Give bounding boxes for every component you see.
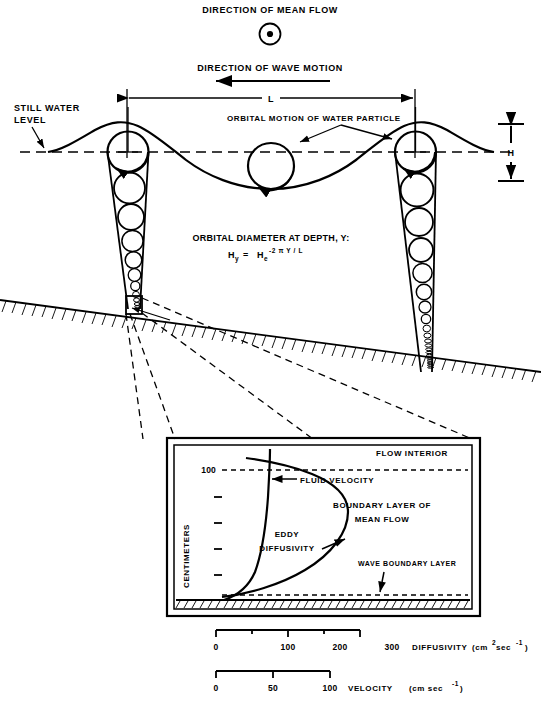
orbital-circle-middle-group [248,143,294,190]
eddy-diffusivity-label-line1: EDDY [275,530,300,539]
formula-expression: H y = H e -2 π Y / L [228,247,303,263]
diffusivity-units-close: ) [525,643,528,652]
formula-title: ORBITAL DIAMETER AT DEPTH, Y: [192,233,349,243]
wave-boundary-layer-callout: WAVE BOUNDARY LAYER [358,560,457,592]
orbital-circle [122,230,143,251]
orbital-ellipse [425,344,432,347]
diffusivity-tick-0: 0 [214,642,219,652]
orbital-leader-right-icon [341,125,392,139]
orbital-circle [419,301,431,313]
formula-rhs-sub: e [264,255,268,262]
wavelength-label: L [268,94,274,104]
wave-boundary-layer-diagram: DIRECTION OF MEAN FLOW DIRECTION OF WAVE… [0,0,541,716]
formula-lhs-sub: y [235,255,239,263]
wave-profile [48,122,494,189]
eddy-diffusivity-label-line2: DIFFUSIVITY [259,544,315,553]
orbital-motion-callout: ORBITAL MOTION OF WATER PARTICLE [227,114,401,142]
fluid-velocity-callout: FLUID VELOCITY [272,476,374,485]
inset-y-tick-100: 100 [201,465,216,475]
rotation-arrow-icon [116,152,148,172]
rotation-arrow-icon [403,152,435,172]
orbital-circle [409,238,433,262]
velocity-tick-0: 0 [214,683,219,693]
diffusivity-tick-100: 100 [281,642,296,652]
orbital-circle [131,281,140,290]
orbital-column-right [395,107,436,372]
velocity-units-sup: -1 [452,680,459,687]
boundary-layer-label-line2: MEAN FLOW [355,515,410,524]
orbital-circle [423,325,431,332]
inset-curves [222,449,348,600]
formula-rhs-exponent: -2 π Y / L [269,247,303,254]
flow-interior-label: FLOW INTERIOR [376,449,448,458]
orbital-circle [421,314,430,323]
orbital-ellipse [135,306,140,308]
orbital-ellipse [426,351,432,353]
mean-flow-symbol-out-of-page-icon [260,24,281,45]
seabed [0,300,541,382]
inset-y-axis-label: CENTIMETERS [182,524,191,588]
orbital-circle [401,174,434,207]
diffusivity-axis-name: DIFFUSIVITY [412,643,468,652]
seabed-hatching [2,301,536,382]
figure-root: DIRECTION OF MEAN FLOW DIRECTION OF WAVE… [0,0,541,716]
velocity-scale: 0 50 100 VELOCITY (cm sec -1 ) [214,671,464,693]
still-water-label-line2: LEVEL [14,115,46,125]
wave-boundary-layer-leader-icon [380,572,384,592]
orbital-circle [114,173,145,204]
velocity-units-close: ) [460,684,463,693]
velocity-tick-50: 50 [268,683,278,693]
orbital-ellipse [426,348,432,351]
mean-flow-title: DIRECTION OF MEAN FLOW [202,5,338,15]
diffusivity-scale: 0 100 200 300 DIFFUSIVITY (cm 2 sec -1 ) [214,630,529,652]
orbital-circle [405,208,433,236]
fluid-velocity-label: FLUID VELOCITY [300,476,374,485]
orbital-leader-left-icon [300,125,341,142]
orbital-circle [413,263,432,282]
orbital-motion-label: ORBITAL MOTION OF WATER PARTICLE [227,114,401,123]
velocity-axis-name: VELOCITY [348,684,393,693]
orbital-ellipse [425,339,432,343]
seabed-line [0,300,541,372]
still-water-level-callout: STILL WATER LEVEL [14,103,80,148]
orbital-circle [125,252,142,269]
diffusivity-units-rest: sec [496,643,511,652]
diffusivity-tick-200: 200 [333,642,348,652]
orbital-circle [118,204,144,230]
orbital-diameter-formula-block: ORBITAL DIAMETER AT DEPTH, Y: H y = H e … [192,233,349,263]
orbital-circle [128,269,141,282]
inset-bed [176,600,470,608]
orbital-column-left [108,107,149,309]
velocity-units-main: (cm sec [409,684,443,693]
formula-lhs-base: H [228,250,235,260]
diffusivity-units-main: (cm [472,643,488,652]
velocity-units: (cm sec -1 ) [409,680,463,693]
diffusivity-units-sup2: -1 [516,639,523,646]
wave-height-label: H [507,148,514,158]
orbital-ellipse [134,298,140,302]
inset-y-ticks [214,497,222,575]
fluid-velocity-curve [224,449,270,600]
still-water-label-line1: STILL WATER [14,103,80,113]
diffusivity-tick-300: 300 [385,642,400,652]
boundary-layer-inset-panel: CENTIMETERS 100 FLOW INTERIOR BOUNDARY L… [167,438,480,616]
velocity-tick-100: 100 [323,683,338,693]
formula-equals: = [243,250,249,260]
orbital-ellipse [424,333,431,338]
still-water-leader-icon [32,127,44,148]
wave-boundary-layer-label: WAVE BOUNDARY LAYER [358,560,457,567]
wave-motion-group: DIRECTION OF WAVE MOTION [197,63,343,81]
orbital-circle [416,284,431,299]
diffusivity-units: (cm 2 sec -1 ) [472,639,528,652]
formula-rhs-base: H [257,250,264,260]
orbital-ellipse [134,303,139,306]
mean-flow-group: DIRECTION OF MEAN FLOW [202,5,338,45]
wave-motion-label: DIRECTION OF WAVE MOTION [197,63,343,73]
inset-bed-hatching [176,601,468,608]
